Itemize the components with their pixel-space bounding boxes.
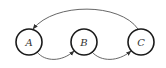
node-a: A	[16, 29, 42, 55]
node-c: C	[128, 29, 154, 55]
node-b: B	[71, 29, 97, 55]
node-b-label: B	[79, 37, 87, 48]
state-diagram: A B C	[0, 0, 166, 68]
node-c-label: C	[137, 37, 145, 48]
edge-c-to-a	[33, 9, 138, 29]
edge-b-to-c	[92, 51, 131, 59]
node-a-label: A	[24, 37, 32, 48]
edge-a-to-b	[37, 51, 74, 59]
